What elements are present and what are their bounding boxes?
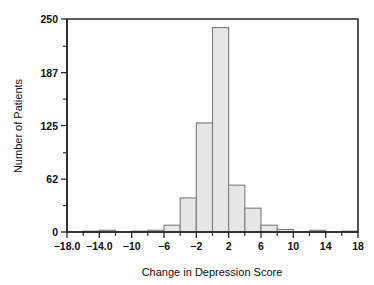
- x-tick-label: 6: [258, 240, 264, 252]
- histogram-bar: [245, 208, 261, 232]
- x-tick-label: −14.0: [86, 240, 113, 252]
- histogram-figure: 062125187250 −18.0−14.0−10−6−226101418 C…: [0, 0, 374, 285]
- histogram-bar: [180, 198, 196, 232]
- y-axis-title: Number of Patients: [12, 78, 24, 173]
- x-tick-label: −6: [158, 240, 170, 252]
- x-tick-label: −2: [190, 240, 202, 252]
- histogram-bar: [213, 28, 229, 232]
- histogram-bar: [261, 225, 277, 232]
- y-tick-label: 62: [46, 173, 58, 185]
- histogram-bar: [164, 225, 180, 232]
- histogram-bar: [196, 123, 212, 232]
- x-tick-label: −18.0: [54, 240, 81, 252]
- x-tick-label: 14: [320, 240, 332, 252]
- y-tick-label: 0: [52, 226, 58, 238]
- x-axis-title: Change in Depression Score: [142, 266, 283, 278]
- depression-score-histogram: 062125187250 −18.0−14.0−10−6−226101418 C…: [0, 0, 374, 285]
- x-tick-label: 2: [226, 240, 232, 252]
- y-tick-label: 250: [40, 13, 58, 25]
- y-tick-label: 187: [40, 67, 58, 79]
- y-tick-label: 125: [40, 120, 58, 132]
- x-tick-label: −10: [123, 240, 141, 252]
- x-tick-label: 10: [287, 240, 299, 252]
- histogram-bar: [229, 185, 245, 232]
- x-tick-label: 18: [352, 240, 364, 252]
